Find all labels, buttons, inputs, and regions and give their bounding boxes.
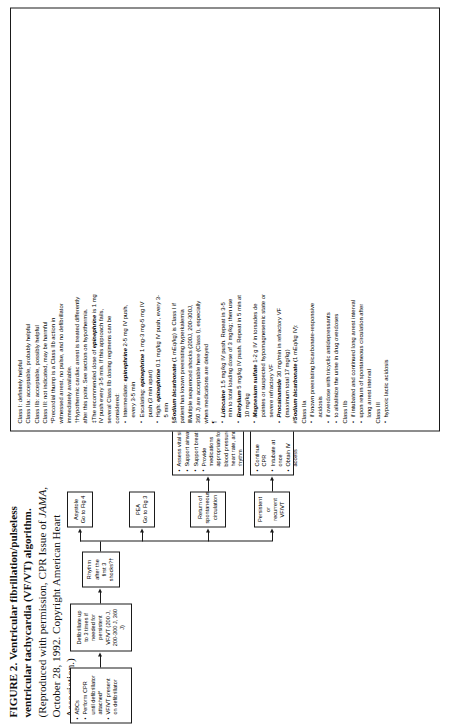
flow-box-pea: PEA Go to Fig 3 <box>129 491 155 527</box>
connector <box>100 541 101 551</box>
footnote-parallel: ‖Multiple sequenced shocks (200J, 200-30… <box>187 293 211 423</box>
class-definition: Class IIb: acceptable, possibly helpful <box>34 293 42 423</box>
antiarrhythmic-drug: Magnesium sulfate 1-2 g IV in torsades d… <box>252 293 276 423</box>
connector <box>142 531 143 541</box>
connector <box>208 531 209 541</box>
regimen-prefix: Escalating: <box>139 387 145 417</box>
figure-credit-source: JAMA, <box>36 486 48 517</box>
class-iia-item: to alkalinize the urine in drug overdose… <box>333 293 341 423</box>
drug-name: epinephrine <box>122 348 128 381</box>
figure-credit-pre: (Reproduced with permission, CPR Issue o… <box>36 517 48 717</box>
flow-box-text: Defibrillate up to 3 times if needed for… <box>76 607 127 647</box>
arrow-icon <box>206 476 210 480</box>
footnote-pilcrow-lead: ¶ <box>211 293 219 423</box>
footnote-lead: ‡The recommended dose of <box>91 348 97 423</box>
list-item: ABCs <box>74 671 81 719</box>
epi-regimen: Intermediate: epinephrine 2-5 mg IV push… <box>122 293 138 423</box>
flow-box-initial-assessment: ABCs Perform CPR until defibrillator att… <box>70 667 132 723</box>
connector <box>80 531 81 541</box>
drug-name: Bretylium <box>236 390 242 417</box>
regimen-prefix: Intermediate: <box>122 381 128 417</box>
antiarrhythmic-drug: Lidocaine 1.5 mg/kg IV push. Repeat in 3… <box>220 293 236 423</box>
footnote-rest: (1 mEq/kg IV): <box>292 324 298 363</box>
arrow-icon <box>140 528 144 532</box>
drug-name: epinephrine <box>91 314 97 347</box>
arrow-icon <box>98 588 102 592</box>
drug-name: Procainamide <box>276 378 282 417</box>
arrow-icon <box>270 528 274 532</box>
class-iib-label: Class IIb <box>342 293 350 423</box>
flow-box-subtext: Go to Fig 3 <box>142 495 149 523</box>
footnote-hash: #Sodium bicarbonate (1 mEq/kg IV): <box>292 293 300 423</box>
figure-label: FIGURE 2. <box>7 662 19 717</box>
arrow-icon <box>270 476 274 480</box>
epi-regimen: Escalating: epinephrine 1 mg-3 mg-5 mg I… <box>139 293 155 423</box>
drug-name: Magnesium sulfate <box>252 364 258 417</box>
flow-box-return-of-circulation: Return of spontaneous circulation <box>190 491 226 527</box>
drug-name: Lidocaine <box>220 390 226 418</box>
flow-box-defibrillate-3-times: Defibrillate up to 3 times if needed for… <box>70 603 132 651</box>
flow-box-text: Return of spontaneous circulation <box>197 491 219 523</box>
flow-box-continue-cpr: Continue CPR Intubate at once Obtain IV … <box>250 427 294 475</box>
antiarrhythmic-drug: Bretylium 5 mg/kg IV push. Repeat in 5 m… <box>236 293 252 423</box>
flow-box-persistent-vfvt: Persistent or recurrent VF/VT <box>254 491 290 527</box>
connector <box>100 591 101 603</box>
arrow-icon <box>206 528 210 532</box>
connector <box>272 479 273 491</box>
antiarrhythmic-drug: Procainamide 30 mg/min in refractory VF … <box>276 293 292 423</box>
class-definition: Class IIa: acceptable, probably helpful <box>25 293 33 423</box>
vfvt-algorithm-flowchart: ABCs Perform CPR until defibrillator att… <box>64 439 444 723</box>
footnotes-panel: Class I: definitely helpful Class IIa: a… <box>10 7 440 431</box>
connector <box>100 655 101 667</box>
class-iib-item: if intubated and continued long arrest i… <box>350 293 358 423</box>
class-iia-item: if overdose with tricyclic antidepressan… <box>325 293 333 423</box>
connector <box>208 479 209 491</box>
drug-name: epinephrine <box>139 353 145 386</box>
drug-name: Sodium bicarbonate <box>292 363 298 420</box>
arrow-icon <box>78 528 82 532</box>
drug-name: epinephrine <box>155 368 161 401</box>
class-iia-label: Class IIa <box>301 293 309 423</box>
class-iia-item: if known preexisting bicarbonate-respons… <box>309 293 325 423</box>
flow-box-rhythm-check: Rhythm after the first 3 shocks?† <box>82 551 120 587</box>
class-iii-item: hypoxic lactic acidosis <box>383 293 391 423</box>
class-iib-item: upon return of spontaneous circulation a… <box>358 293 374 423</box>
connector <box>272 531 273 541</box>
class-definition: Class III: not indicated, may be harmful <box>42 293 50 423</box>
flow-box-asystole: Asystole Go to Fig 4 <box>67 491 93 527</box>
flow-box-text: Asystole <box>73 495 80 523</box>
drug-name: Sodium bicarbonate <box>171 363 177 420</box>
flow-box-text: Rhythm after the first 3 shocks?† <box>86 555 115 583</box>
flow-box-subtext: Go to Fig 4 <box>80 495 87 523</box>
flow-box-text: Persistent or recurrent VF/VT <box>257 495 286 523</box>
footnote-section: §Sodium bicarbonate (1 mEq/kg) is Class … <box>171 293 187 423</box>
footnote-asterisk: *Precordial thump is a Class IIb action … <box>50 293 74 423</box>
list-item: Continue CPR <box>254 431 269 471</box>
class-definition: Class I: definitely helpful <box>17 293 25 423</box>
list-item: Obtain IV access <box>285 431 300 471</box>
epi-regimen: High: epinephrine 0.1 mg/kg IV push, eve… <box>155 293 171 423</box>
arrow-icon <box>98 652 102 656</box>
list-item: Intubate at once <box>270 431 285 471</box>
class-iii-label: Class III <box>375 293 383 423</box>
flow-box-text: PEA <box>135 495 142 523</box>
connector <box>80 540 100 541</box>
list-item: VF/VT present on defibrillator <box>105 671 120 719</box>
figure-page: FIGURE 2. Ventricular fibrillation/pulse… <box>0 0 450 727</box>
footnote-double-dagger: ‡The recommended dose of epinephrine is … <box>91 293 122 423</box>
footnote-dagger: †Hypothermic cardiac arrest is treated d… <box>74 293 90 423</box>
list-item: Perform CPR until defibrillator attached… <box>82 671 104 719</box>
regimen-prefix: High: <box>155 402 161 417</box>
connector <box>100 540 272 541</box>
